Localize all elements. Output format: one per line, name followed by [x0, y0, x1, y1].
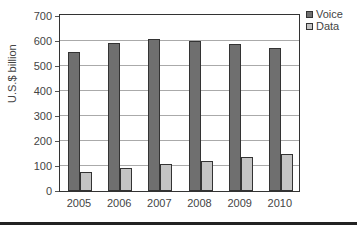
data-swatch-icon — [306, 23, 313, 30]
y-tick-label: 700 — [22, 10, 52, 22]
bar-voice-2008 — [189, 41, 201, 192]
legend-label: Voice — [316, 8, 343, 20]
y-tick-label: 0 — [22, 185, 52, 197]
bar-data-2008 — [201, 161, 213, 191]
bar-data-2010 — [281, 154, 293, 192]
y-tick-label: 400 — [22, 85, 52, 97]
bar-voice-2005 — [68, 52, 80, 191]
bar-voice-2010 — [269, 48, 281, 191]
plot-area — [59, 14, 300, 192]
x-tick-label: 2010 — [260, 197, 300, 209]
x-tick-label: 2007 — [139, 197, 179, 209]
y-tick-label: 600 — [22, 35, 52, 47]
bar-voice-2009 — [229, 44, 241, 192]
x-tick-label: 2005 — [59, 197, 99, 209]
y-tick-label: 100 — [22, 160, 52, 172]
voice-swatch-icon — [306, 11, 313, 18]
bottom-rule-divider — [0, 222, 357, 225]
legend-item-data: Data — [306, 20, 343, 32]
gridline — [60, 165, 299, 166]
gridline — [60, 90, 299, 91]
gridline — [60, 40, 299, 41]
y-tick-label: 500 — [22, 60, 52, 72]
y-axis-label: U.S.$ billion — [6, 44, 18, 103]
legend: Voice Data — [306, 8, 343, 32]
y-tick-label: 300 — [22, 110, 52, 122]
gridline — [60, 140, 299, 141]
x-tick-label: 2009 — [220, 197, 260, 209]
bar-voice-2007 — [148, 39, 160, 191]
bar-data-2007 — [160, 164, 172, 191]
bar-data-2005 — [80, 172, 92, 192]
bar-data-2006 — [120, 168, 132, 192]
bar-data-2009 — [241, 157, 253, 191]
y-tick-label: 200 — [22, 135, 52, 147]
legend-item-voice: Voice — [306, 8, 343, 20]
gridline — [60, 65, 299, 66]
gridline — [60, 115, 299, 116]
legend-label: Data — [316, 20, 339, 32]
x-tick-label: 2006 — [99, 197, 139, 209]
x-tick-label: 2008 — [180, 197, 220, 209]
bar-voice-2006 — [108, 43, 120, 191]
